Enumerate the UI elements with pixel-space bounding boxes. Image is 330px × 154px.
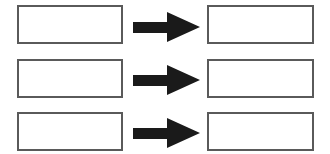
target-box-2 bbox=[207, 59, 314, 98]
right-arrow-icon bbox=[133, 64, 201, 96]
target-box-1 bbox=[207, 5, 314, 44]
source-box-3 bbox=[17, 112, 123, 151]
source-box-1 bbox=[17, 5, 123, 44]
source-box-2 bbox=[17, 59, 123, 98]
right-arrow-icon bbox=[133, 117, 201, 149]
right-arrow-icon bbox=[133, 11, 201, 43]
target-box-3 bbox=[207, 112, 314, 151]
